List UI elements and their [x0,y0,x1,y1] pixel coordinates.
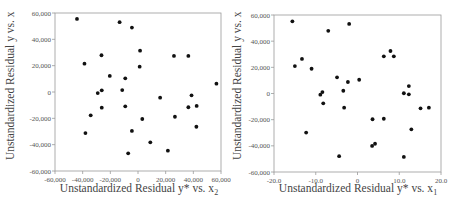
data-point [337,154,341,158]
data-point [89,113,93,117]
data-point [118,20,122,24]
data-point [409,127,413,131]
y-tick-label: -60,000 [29,168,51,176]
data-point [96,91,100,95]
y-tick-label: 0 [267,90,271,98]
data-point [186,105,190,109]
data-point [100,88,104,92]
data-point [100,53,104,57]
plot-frame [55,13,221,171]
data-point [357,78,361,82]
y-tick-label: -20,000 [29,115,51,123]
data-point [130,129,134,133]
data-point [407,92,411,96]
data-point [304,131,308,135]
data-point [100,106,104,110]
data-point [382,54,386,58]
data-point [148,140,152,144]
data-point [419,106,423,110]
data-point [172,54,176,58]
data-point [140,117,144,121]
x-axis-label: Unstandardized Residual y* vs. x2 [55,182,223,197]
data-point [108,74,112,78]
data-point [371,117,375,121]
data-point [130,26,134,30]
data-point [166,149,170,153]
data-point [402,155,406,159]
data-point [300,57,304,61]
y-tick-label: -40,000 [29,141,51,149]
y-tick-label: 0 [48,89,52,97]
data-point [382,117,386,121]
y-tick-label: 20,000 [32,62,52,70]
data-point [173,115,177,119]
y-tick-label: 20,000 [251,64,271,72]
y-tick-label: 60,000 [251,12,271,20]
data-point [138,65,142,69]
plot-frame [274,15,441,172]
data-point [120,88,124,92]
data-point [126,151,130,155]
plot-area: 60,00040,00020,0000-20,000-40,000-60,000… [231,0,462,206]
data-point [123,104,127,108]
data-point [215,82,219,86]
data-point [158,96,162,100]
plot-area: 60,00040,00020,0000-20,000-40,000-60,000… [0,0,231,206]
data-point [123,76,127,80]
data-point [326,29,330,33]
data-point [84,131,88,135]
data-point [402,91,406,95]
y-tick-label: 40,000 [32,36,52,44]
data-point [427,106,431,110]
data-point [310,67,314,71]
data-point [321,101,325,105]
data-point [389,49,393,53]
data-point [346,80,350,84]
y-axis-label: Unstandardized Residual y vs. x [4,11,16,160]
data-point [83,62,87,66]
data-point [370,144,374,148]
data-point [290,19,294,23]
y-tick-label: 40,000 [251,38,271,46]
data-point [194,125,198,129]
data-point [341,89,345,93]
scatter-chart-x1: 60,00040,00020,0000-20,000-40,000-60,000… [231,0,462,206]
data-point [138,49,142,53]
data-point [318,93,322,97]
y-axis-label: Unstandardized Residual y vs. x [231,11,243,160]
data-point [342,106,346,110]
y-tick-label: -60,000 [248,169,270,177]
data-point [293,64,297,68]
data-point [347,22,351,26]
x-axis-label: Unstandardized Residual y* vs. x1 [274,182,442,197]
y-tick-label: -40,000 [248,142,270,150]
data-point [392,54,396,58]
scatter-chart-x2: 60,00040,00020,0000-20,000-40,000-60,000… [0,0,231,206]
data-point [407,84,411,88]
data-point [195,104,199,108]
y-tick-label: -20,000 [248,116,270,124]
data-point [75,17,79,21]
data-point [190,93,194,97]
data-point [186,54,190,58]
y-tick-label: 60,000 [32,10,52,18]
data-point [335,75,339,79]
